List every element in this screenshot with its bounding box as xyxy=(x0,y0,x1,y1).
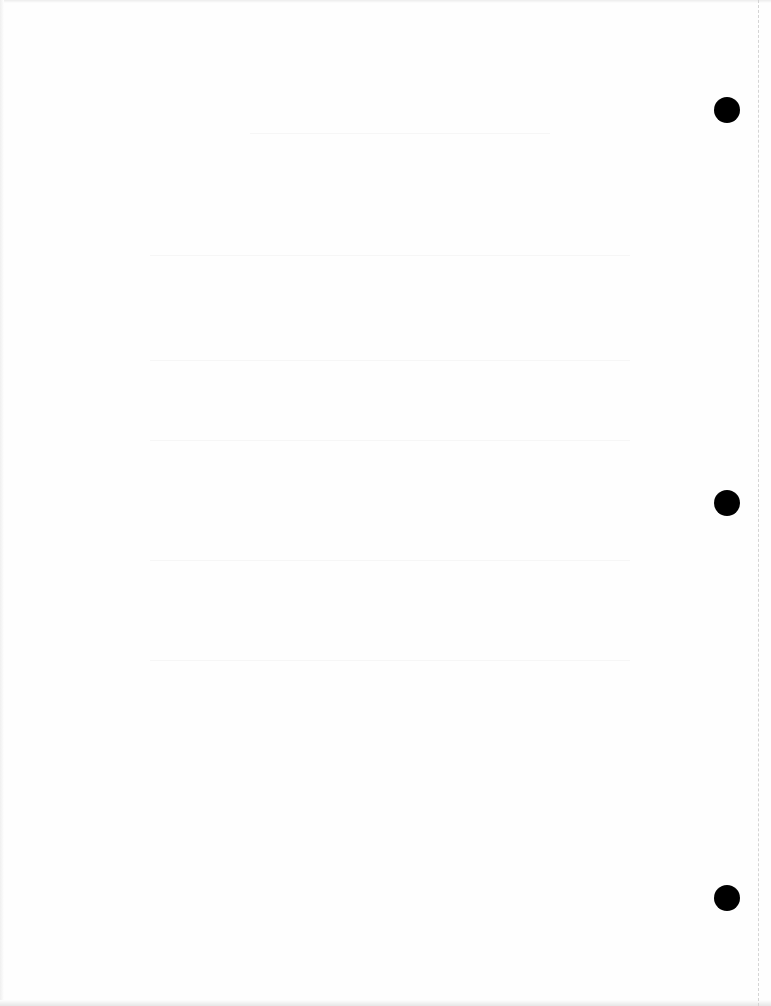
show-through-line xyxy=(150,255,630,256)
scan-edge-top xyxy=(0,0,771,3)
scanned-page xyxy=(0,0,771,1006)
punch-hole-top xyxy=(714,97,740,123)
scan-edge-left xyxy=(0,0,4,1006)
show-through-line xyxy=(150,660,630,661)
show-through-line xyxy=(150,360,630,361)
show-through-heading xyxy=(250,133,550,134)
perforation-line xyxy=(758,0,759,1006)
punch-hole-bottom xyxy=(714,885,740,911)
show-through-line xyxy=(150,440,630,441)
show-through-line xyxy=(150,560,630,561)
punch-hole-middle xyxy=(714,490,740,516)
scan-edge-bottom xyxy=(0,1000,771,1006)
